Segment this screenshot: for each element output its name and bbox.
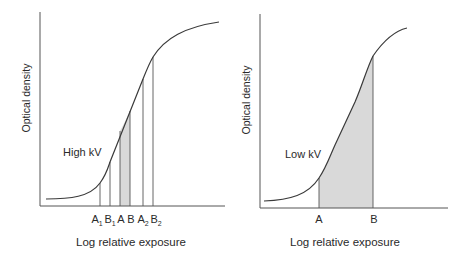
curve-high-kv <box>46 22 219 199</box>
curve-label-high-kv: High kV <box>63 146 102 158</box>
tick-label-a2: A2 <box>137 213 148 227</box>
y-axis-label-low-kv: Optical density <box>240 65 252 135</box>
tick-label-b: B <box>127 213 134 225</box>
shaded-region-low-kv <box>319 56 373 208</box>
characteristic-curves-diagram: High kV Optical density Log relative exp… <box>0 0 461 261</box>
tick-label-a: A <box>117 213 125 225</box>
tick-label-a1: A1 <box>91 213 102 227</box>
tick-label-a-low: A <box>315 213 323 225</box>
tick-label-b2: B2 <box>150 213 161 227</box>
tick-label-b-low: B <box>370 213 377 225</box>
y-axis-label-high-kv: Optical density <box>20 63 32 133</box>
x-axis-label-high-kv: Log relative exposure <box>76 236 186 248</box>
panel-low-kv: Low kV Optical density Log relative expo… <box>240 14 448 248</box>
tick-label-b1: B1 <box>104 213 115 227</box>
x-axis-label-low-kv: Log relative exposure <box>290 236 400 248</box>
curve-label-low-kv: Low kV <box>285 148 322 160</box>
panel-high-kv: High kV Optical density Log relative exp… <box>20 12 225 248</box>
